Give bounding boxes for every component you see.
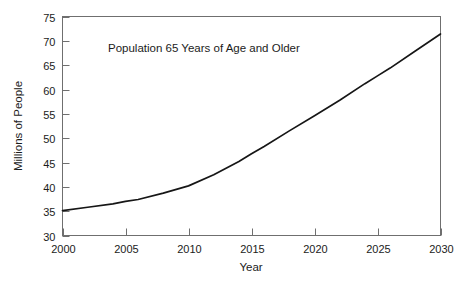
- x-tick-label-2030: 2030: [429, 243, 453, 255]
- y-axis-label: Millions of People: [12, 81, 24, 171]
- y-tick-label-40: 40: [43, 182, 55, 194]
- y-tick-label-45: 45: [43, 158, 55, 170]
- line-chart-canvas: 30354045505560657075 2000200520102015202…: [0, 0, 463, 284]
- chart-title: Population 65 Years of Age and Older: [108, 42, 300, 54]
- y-tick-label-30: 30: [43, 231, 55, 243]
- x-axis-label: Year: [239, 261, 262, 273]
- y-tick-label-65: 65: [43, 60, 55, 72]
- chart-figure: 30354045505560657075 2000200520102015202…: [0, 0, 463, 284]
- x-tick-label-2015: 2015: [240, 243, 264, 255]
- x-tick-label-2020: 2020: [303, 243, 327, 255]
- x-tick-label-2005: 2005: [114, 243, 138, 255]
- x-tick-label-2000: 2000: [51, 243, 75, 255]
- y-tick-label-50: 50: [43, 133, 55, 145]
- y-tick-label-70: 70: [43, 36, 55, 48]
- x-tick-label-2010: 2010: [177, 243, 201, 255]
- y-tick-label-60: 60: [43, 85, 55, 97]
- y-tick-label-55: 55: [43, 109, 55, 121]
- x-tick-label-2025: 2025: [366, 243, 390, 255]
- y-tick-label-35: 35: [43, 206, 55, 218]
- y-tick-label-75: 75: [43, 12, 55, 24]
